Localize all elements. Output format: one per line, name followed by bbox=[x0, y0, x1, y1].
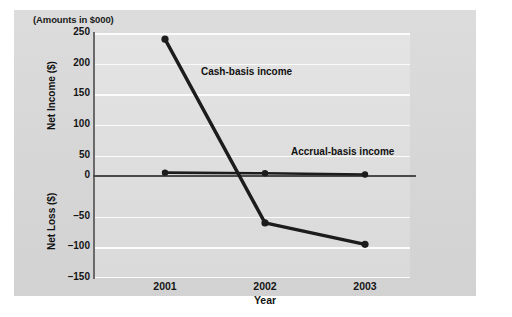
data-point bbox=[161, 36, 168, 43]
chart-figure: (Amounts in $000) 250 200 150 100 50 0 –… bbox=[0, 0, 512, 317]
data-point bbox=[162, 169, 168, 175]
data-point bbox=[362, 171, 368, 177]
annotation-cash-basis-income: Cash-basis income bbox=[201, 66, 292, 77]
series-layer bbox=[0, 0, 512, 317]
data-point bbox=[261, 219, 268, 226]
data-point bbox=[361, 241, 368, 248]
annotation-accrual-basis-income: Accrual-basis income bbox=[291, 146, 394, 157]
data-point bbox=[262, 170, 268, 176]
